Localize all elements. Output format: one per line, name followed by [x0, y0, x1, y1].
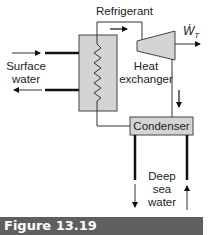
- turbine-work-label: ẆT: [183, 24, 199, 40]
- condenser-label: Condenser: [130, 117, 193, 135]
- turbine-icon: [137, 31, 175, 60]
- figure-caption-bar: Figure 13.19: [0, 217, 203, 235]
- refrigerant-loop-bottom: [97, 111, 130, 126]
- deep-sea-water-label: Deep sea water: [141, 170, 183, 209]
- surface-water-label-line1: Surface: [0, 60, 52, 73]
- surface-water-label: Surface water: [0, 60, 52, 86]
- deep-sea-label-line2: sea: [141, 183, 183, 196]
- heat-exchanger-label-line1: Heat: [118, 60, 174, 73]
- deep-sea-label-line1: Deep: [141, 170, 183, 183]
- surface-water-label-line2: water: [0, 73, 52, 86]
- work-subscript: T: [194, 31, 199, 40]
- deep-sea-label-line3: water: [141, 196, 183, 209]
- work-symbol: Ẇ: [183, 24, 194, 38]
- heat-exchanger-label-line2: exchanger: [118, 73, 174, 86]
- heat-exchanger-label: Heat exchanger: [118, 60, 174, 86]
- heat-exchanger-box: [79, 35, 117, 111]
- refrigerant-label: Refrigerant: [96, 5, 153, 18]
- figure-caption: Figure 13.19: [4, 218, 97, 234]
